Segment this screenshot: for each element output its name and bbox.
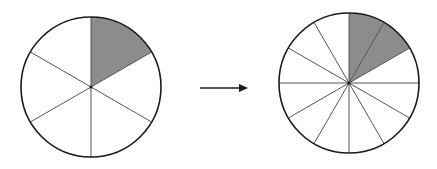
arrow-icon [200,84,248,92]
segment-divider [288,48,349,83]
segment-divider [288,83,349,118]
shaded-segment [91,17,152,87]
segment-divider [30,87,91,122]
segment-divider [349,83,384,144]
center-dot [348,82,351,85]
segment-divider [91,87,152,122]
segment-divider [314,22,349,83]
segment-divider [314,83,349,144]
center-dot [90,86,93,89]
fraction-diagram [0,0,437,169]
left-circle-sixths [21,17,161,157]
segment-divider [349,83,410,118]
right-circle-twelfths [279,13,419,153]
segment-divider [30,52,91,87]
